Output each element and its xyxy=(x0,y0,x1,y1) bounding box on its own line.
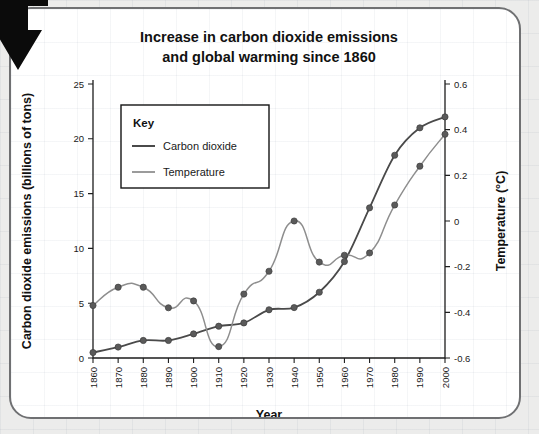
y-axis-title: Carbon dioxide emissions (billions of to… xyxy=(20,93,34,349)
y-axis-tick-label: 0 xyxy=(79,353,84,364)
data-point-marker xyxy=(216,323,222,329)
data-point-marker xyxy=(266,307,272,313)
x-axis-tick-label: 1860 xyxy=(88,367,99,388)
data-point-marker xyxy=(341,252,347,258)
data-point-marker xyxy=(417,163,423,169)
data-point-marker xyxy=(266,268,272,274)
x-axis-tick-label: 1870 xyxy=(113,367,124,388)
data-point-marker xyxy=(366,250,372,256)
x-axis-tick-label: 1890 xyxy=(163,367,174,388)
data-point-marker xyxy=(190,331,196,337)
x-axis-tick-label: 1880 xyxy=(138,367,149,388)
y2-axis-tick-label: 0 xyxy=(454,216,459,227)
legend-label-temperature: Temperature xyxy=(163,166,225,178)
data-point-marker xyxy=(90,302,96,308)
y-axis-tick-label: 25 xyxy=(73,79,84,90)
data-point-marker xyxy=(241,320,247,326)
screenshot-root: Increase in carbon dioxide emissionsand … xyxy=(0,0,539,434)
data-point-marker xyxy=(165,337,171,343)
data-point-marker xyxy=(417,125,423,131)
y2-axis-tick-label: -0.4 xyxy=(454,307,470,318)
x-axis-tick-label: 1960 xyxy=(339,367,350,388)
data-point-marker xyxy=(316,289,322,295)
data-point-marker xyxy=(392,152,398,158)
data-point-marker xyxy=(316,259,322,265)
x-axis-tick-label: 1920 xyxy=(238,367,249,388)
y2-axis-title: Temperature (°C) xyxy=(494,171,508,272)
data-point-marker xyxy=(442,131,448,137)
y2-axis-tick-label: -0.6 xyxy=(454,353,470,364)
legend-label-carbon-dioxide: Carbon dioxide xyxy=(163,140,237,152)
data-point-marker xyxy=(341,258,347,264)
data-point-marker xyxy=(140,337,146,343)
chart-title-line1: Increase in carbon dioxide emissions xyxy=(140,29,398,45)
co2-temperature-line-chart: Increase in carbon dioxide emissionsand … xyxy=(11,9,521,419)
data-point-marker xyxy=(392,202,398,208)
data-point-marker xyxy=(291,218,297,224)
x-axis-tick-label: 1970 xyxy=(364,367,375,388)
y2-axis-tick-label: -0.2 xyxy=(454,261,470,272)
data-point-marker xyxy=(165,305,171,311)
y2-axis-tick-label: 0.2 xyxy=(454,170,467,181)
x-axis-tick-label: 1900 xyxy=(188,367,199,388)
y-axis-tick-label: 5 xyxy=(79,298,84,309)
x-axis-tick-label: 1940 xyxy=(289,367,300,388)
y2-axis-tick-label: 0.6 xyxy=(454,79,467,90)
data-point-marker xyxy=(190,298,196,304)
data-point-marker xyxy=(90,349,96,355)
corner-arrow-pointer-icon xyxy=(0,0,50,84)
data-point-marker xyxy=(291,304,297,310)
y2-axis-tick-label: 0.4 xyxy=(454,124,467,135)
x-axis-tick-label: 1990 xyxy=(414,367,425,388)
chart-title-line2: and global warming since 1860 xyxy=(162,49,376,65)
data-point-marker xyxy=(216,343,222,349)
data-point-marker xyxy=(241,291,247,297)
data-point-marker xyxy=(115,344,121,350)
y-axis-tick-label: 15 xyxy=(73,188,84,199)
data-point-marker xyxy=(140,284,146,290)
y-axis-tick-label: 10 xyxy=(73,243,84,254)
x-axis-tick-label: 1930 xyxy=(264,367,275,388)
x-axis-tick-label: 2000 xyxy=(440,367,451,388)
x-axis-tick-label: 1980 xyxy=(389,367,400,388)
data-point-marker xyxy=(115,284,121,290)
data-point-marker xyxy=(442,114,448,120)
y-axis-tick-label: 20 xyxy=(73,133,84,144)
legend-heading: Key xyxy=(133,117,155,129)
figure-card: Increase in carbon dioxide emissionsand … xyxy=(9,7,521,419)
x-axis-tick-label: 1910 xyxy=(213,367,224,388)
x-axis-title: Year xyxy=(256,408,283,419)
x-axis-tick-label: 1950 xyxy=(314,367,325,388)
data-point-marker xyxy=(366,205,372,211)
